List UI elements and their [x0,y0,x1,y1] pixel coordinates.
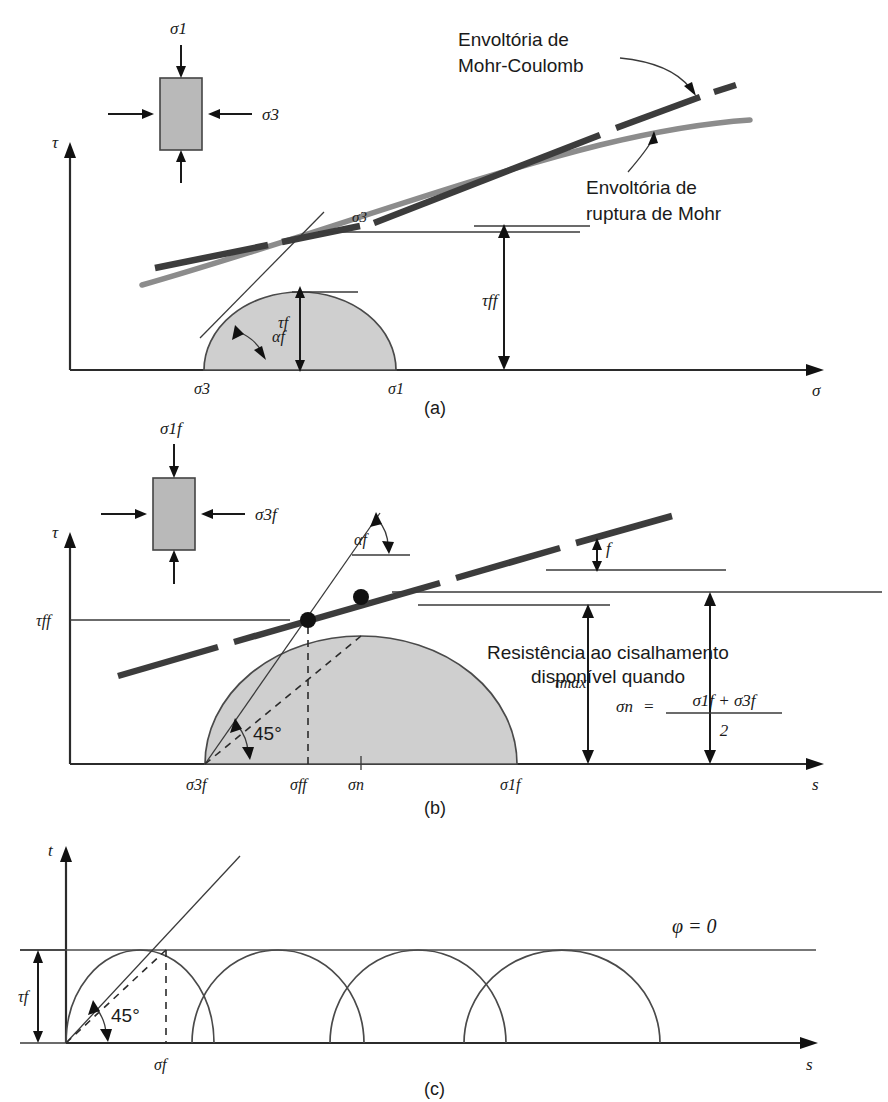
label-mohr-line1: Envoltória de [586,177,697,198]
alpha-f-arrowhead-down-b [382,541,394,554]
slope-angle-label-a: σ3 [352,209,367,225]
alpha-f-arrowhead-up-b [370,512,382,527]
tau-max-point-marker [353,589,369,605]
specimen-sigma1-label: σ1 [170,19,187,38]
alpha-f-label-b: αf [354,531,369,549]
x-tick-sigma1-a: σ1 [388,380,404,397]
panel-b: σ1f σ3f τ s τff αf [0,420,888,820]
equation-denominator: 2 [720,721,729,740]
friction-angle-annotation: f [546,538,726,572]
tau-max-arrowhead-down [582,750,594,764]
x-axis-label-a: σ [812,381,821,400]
tangent-point-marker [300,612,316,628]
arrowhead-sigma3-right [208,109,220,119]
arrowhead-sigma1f-bottom [169,550,179,562]
panel-caption-a: (a) [424,398,446,418]
equation-equals: = [643,697,654,716]
figure-root: σ1 σ3 τ σ σ3 Envoltória de Mohr-Coulomb … [0,0,888,1102]
tau-f-arrowhead-up-c [33,950,43,963]
x-tick-sigma3-a: σ3 [194,380,210,397]
specimen-diagram-a: σ1 σ3 [108,19,279,183]
label-mohr-line2: ruptura de Mohr [586,203,722,224]
tau-f-arrowhead-down-c [33,1031,43,1043]
tau-ff-arrowhead-down-a [498,356,510,370]
resistance-note-line1: Resistência ao cisalhamento [487,642,729,663]
resistance-note-line2: disponível quando [531,666,685,687]
y-axis-arrowhead-b [64,532,76,548]
angle-45-label-b: 45° [253,723,282,744]
equation-numerator: σ1f + σ3f [692,691,757,710]
arrowhead-sigma3-left [142,109,154,119]
resistance-arrowhead-up [704,592,716,606]
y-axis-arrowhead-c [60,846,72,862]
axes-c: t s [48,841,818,1074]
panel-caption-b: (b) [424,798,446,818]
specimen-block [160,78,202,150]
alpha-f-annotation-b: αf [352,512,410,555]
label-mc-line1: Envoltória de [458,29,569,50]
tau-max-arrowhead-up [582,604,594,618]
phi-zero-label: φ = 0 [672,915,717,938]
arrowhead-sigma3f-right [201,509,213,519]
arrowhead-sigma1f-top [169,466,179,478]
panel-c: t s φ = 0 τf 45° σf (c) [0,820,888,1102]
tau-f-bracket-c: τf [18,950,66,1043]
tau-ff-bracket-a: τff [474,224,590,370]
label-envelope-mohr-coulomb: Envoltória de Mohr-Coulomb [458,29,696,96]
y-axis-label-a: τ [52,133,59,152]
label-mc-line2: Mohr-Coulomb [458,55,584,76]
mohr-circles-c [66,950,660,1043]
x-axis-label-c: s [806,1055,813,1074]
specimen-sigma1f-label: σ1f [160,420,184,438]
friction-angle-label: f [606,539,613,558]
resistance-arrowhead-down [704,750,716,764]
tau-ff-guide-b: τff [36,612,290,630]
dashed-radius-c [66,950,166,1043]
x-axis-arrowhead-a [806,364,824,376]
specimen-sigma3-label: σ3 [262,105,279,124]
mohr-circle-c-3 [330,950,506,1043]
angle-45-arrowhead-down-c [100,1029,112,1042]
x-tick-sigma1f: σ1f [500,776,523,794]
y-axis-label-b: τ [52,523,59,542]
arrowhead-sigma3f-left [135,509,147,519]
x-tick-sigma3f: σ3f [186,776,209,794]
arrowhead-sigma1-top [176,66,186,78]
panel-a: σ1 σ3 τ σ σ3 Envoltória de Mohr-Coulomb … [0,0,888,420]
y-axis-arrowhead-a [64,142,76,158]
y-axis-label-c: t [48,841,54,860]
x-axis-arrowhead-b [806,758,824,770]
angle-45-annotation-c: 45° [88,1000,140,1042]
x-axis-label-b: s [812,775,819,794]
tau-ff-label-b: τff [36,612,53,630]
angle-45-label-c: 45° [111,1005,140,1026]
specimen-block-b [153,478,195,550]
tau-f-label-c: τf [18,988,31,1006]
panel-caption-c: (c) [424,1079,445,1099]
x-axis-arrowhead-c [800,1037,818,1049]
equation-lhs: σn [616,697,633,716]
resistance-note: Resistência ao cisalhamento disponível q… [487,642,782,740]
leader-mc [620,58,690,88]
specimen-diagram-b: σ1f σ3f [101,420,279,584]
mohr-circle-b [205,636,517,764]
x-tick-sigma-n: σn [348,776,364,793]
specimen-sigma3f-label: σ3f [255,505,279,524]
tau-ff-label-a: τff [482,291,500,310]
x-tick-sigma-ff: σff [290,776,309,794]
mohr-circle-c-2 [192,950,364,1043]
x-tick-sigma-f: σf [154,1056,169,1074]
arrowhead-sigma1-bottom [176,150,186,162]
